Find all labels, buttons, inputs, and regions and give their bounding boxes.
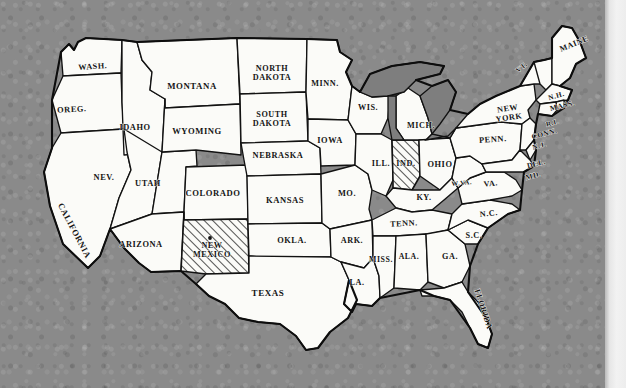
state-label-arizona: ARIZONA	[119, 240, 162, 249]
state-label-utah: UTAH	[135, 179, 161, 188]
state-label-tennessee: TENN.	[390, 218, 418, 228]
state-label-north-carolina: N.C.	[479, 208, 498, 219]
state-label-louisiana: LA.	[349, 278, 364, 287]
shape-maine	[552, 26, 586, 86]
state-label-oregon: OREG.	[57, 104, 87, 115]
state-label-arkansas: ARK.	[341, 236, 363, 245]
state-label-indiana: IND.	[396, 159, 415, 168]
map-screenshot: WASH.OREG.CALIFORNIAIDAHONEV.UTAHARIZONA…	[0, 0, 626, 388]
state-label-virginia: VA.	[483, 178, 498, 188]
state-label-south-carolina: S.C.	[466, 231, 483, 240]
map-svg: WASH.OREG.CALIFORNIAIDAHONEV.UTAHARIZONA…	[0, 0, 626, 388]
state-label-nebraska: NEBRASKA	[253, 151, 304, 160]
state-label-illinois: ILL.	[372, 159, 390, 168]
shape-new-hampshire	[534, 58, 552, 90]
state-label-kansas: KANSAS	[266, 195, 304, 205]
state-label-montana: MONTANA	[167, 81, 217, 91]
state-label-wyoming: WYOMING	[172, 126, 222, 136]
state-label-idaho: IDAHO	[119, 123, 150, 132]
state-label-ohio: OHIO	[427, 160, 452, 169]
state-label-iowa: IOWA	[317, 136, 342, 145]
state-label-georgia: GA.	[442, 252, 458, 261]
state-label-texas: TEXAS	[252, 288, 285, 298]
new-mexico-marker-dot	[208, 236, 212, 240]
state-label-south-dakota: SOUTHDAKOTA	[253, 110, 292, 128]
state-label-kentucky: KY.	[416, 193, 431, 202]
state-label-oklahoma: OKLA.	[277, 236, 307, 245]
state-label-north-dakota: NORTHDAKOTA	[253, 64, 292, 82]
state-label-wisconsin: WIS.	[358, 103, 378, 112]
page-right-margin	[605, 0, 626, 388]
state-label-minnesota: MINN.	[311, 79, 339, 88]
state-label-pennsylvania: PENN.	[479, 134, 507, 145]
state-label-alabama: ALA.	[399, 252, 420, 261]
state-label-colorado: COLORADO	[185, 188, 240, 198]
state-label-nevada: NEV.	[94, 173, 115, 182]
state-label-mississippi: MISS.	[369, 255, 393, 264]
usa-map: WASH.OREG.CALIFORNIAIDAHONEV.UTAHARIZONA…	[0, 0, 626, 388]
state-shapes	[44, 26, 586, 350]
state-label-missouri: MO.	[338, 189, 356, 198]
shape-oregon	[52, 73, 124, 133]
shape-alabama	[394, 234, 428, 290]
state-label-michigan: MICH.	[407, 121, 435, 130]
